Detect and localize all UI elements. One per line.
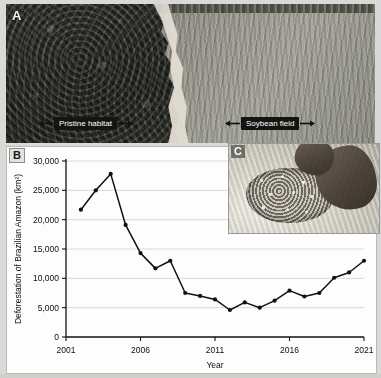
chart-x-axis-title: Year — [206, 360, 223, 370]
pristine-habitat-label: Pristine habitat — [54, 117, 117, 130]
panel-c-letter: C — [231, 145, 245, 158]
photo-grain-overlay — [229, 144, 379, 233]
x-tick-label: 2021 — [355, 345, 374, 355]
data-point — [153, 266, 157, 270]
data-point — [332, 276, 336, 280]
y-tick-label: 0 — [54, 332, 59, 342]
data-point — [347, 270, 351, 274]
y-tick-label: 25,000 — [33, 185, 59, 195]
data-point — [198, 294, 202, 298]
y-tick-label: 30,000 — [33, 156, 59, 166]
y-tick-label: 10,000 — [33, 273, 59, 283]
arrow-right-icon — [117, 117, 133, 130]
data-point — [183, 291, 187, 295]
data-point — [302, 294, 306, 298]
arrow-left-icon — [225, 117, 241, 130]
arrow-right-icon — [299, 117, 315, 130]
data-point — [258, 306, 262, 310]
chart-y-ticks: 05,00010,00015,00020,00025,00030,000 — [33, 156, 66, 342]
pristine-habitat-annotation: Pristine habitat — [38, 117, 133, 130]
panel-c-soybean-photo: C — [228, 143, 380, 234]
soybean-field-label: Soybean field — [241, 117, 299, 130]
data-point — [362, 259, 366, 263]
x-tick-label: 2016 — [280, 345, 299, 355]
panel-b-letter: B — [9, 148, 25, 163]
data-point — [317, 291, 321, 295]
data-point — [138, 251, 142, 255]
figure-bottom-edge — [0, 374, 381, 378]
data-point — [79, 208, 83, 212]
data-point — [94, 188, 98, 192]
data-point — [109, 172, 113, 176]
panel-a-letter: A — [12, 9, 22, 22]
data-point — [124, 223, 128, 227]
y-tick-label: 20,000 — [33, 215, 59, 225]
data-point — [228, 308, 232, 312]
data-point — [168, 259, 172, 263]
y-tick-label: 5,000 — [38, 303, 60, 313]
x-tick-label: 2011 — [206, 345, 225, 355]
chart-y-axis-title: Deforestation of Brazilian Amazon (km²) — [13, 174, 23, 324]
chart-x-ticks: 20012006201120162021 — [57, 337, 374, 355]
data-point — [243, 300, 247, 304]
data-point — [213, 297, 217, 301]
panel-a-aerial-photo: A Pristine habitat Soybean field — [6, 4, 375, 143]
x-tick-label: 2001 — [57, 345, 76, 355]
figure-panel-group: A Pristine habitat Soybean field — [0, 0, 381, 378]
y-tick-label: 15,000 — [33, 244, 59, 254]
soybean-field-annotation: Soybean field — [225, 117, 315, 130]
data-point — [287, 289, 291, 293]
x-tick-label: 2006 — [131, 345, 150, 355]
data-point — [273, 299, 277, 303]
arrow-left-icon — [38, 117, 54, 130]
